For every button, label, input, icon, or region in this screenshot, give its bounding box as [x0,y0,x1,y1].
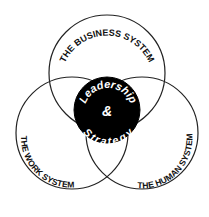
human-system-label: THE HUMAN SYSTEM [137,133,194,190]
business-system-label: THE BUSINESS SYSTEM [58,27,157,63]
venn-diagram: THE BUSINESS SYSTEM THE WORK SYSTEM THE … [0,0,209,217]
center-label-ampersand: & [102,103,112,119]
work-system-label: THE WORK SYSTEM [19,136,74,190]
